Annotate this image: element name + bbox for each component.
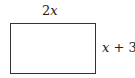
width-label: 2x: [42, 4, 58, 17]
height-label: x + 3: [102, 41, 135, 54]
width-variable: x: [50, 3, 57, 18]
rectangle-shape: [10, 23, 96, 74]
height-constant: + 3: [109, 40, 135, 55]
